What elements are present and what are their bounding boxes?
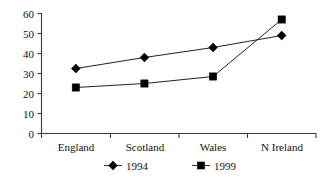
legend-entry-1994[interactable]: 1994 (104, 160, 149, 172)
x-category-label: Scotland (126, 141, 165, 153)
y-tick-label: 50 (23, 28, 35, 40)
chart-canvas: 60 50 40 30 20 10 0 England Scotland Wal… (0, 0, 325, 177)
series-1999-line (76, 20, 282, 88)
x-category-label: England (58, 141, 95, 153)
y-axis-ticks (38, 14, 42, 134)
diamond-marker-icon (209, 43, 218, 52)
series-1999 (72, 16, 285, 91)
series-1994-line (76, 36, 282, 69)
line-chart: 60 50 40 30 20 10 0 England Scotland Wal… (0, 0, 325, 177)
y-tick-label: 20 (23, 88, 35, 100)
chart-legend: 1994 1999 (104, 160, 237, 172)
y-tick-label: 0 (29, 128, 35, 140)
diamond-marker-icon (140, 53, 149, 62)
x-category-label: N Ireland (261, 141, 303, 153)
legend-label-1999: 1999 (214, 160, 237, 172)
x-category-label: Wales (200, 141, 227, 153)
y-tick-label: 60 (23, 8, 35, 20)
square-marker-icon (72, 84, 79, 91)
square-marker-icon (198, 162, 205, 169)
legend-label-1994: 1994 (126, 160, 149, 172)
y-tick-label: 30 (23, 68, 35, 80)
y-axis-tick-labels: 60 50 40 30 20 10 0 (23, 8, 35, 140)
diamond-marker-icon (71, 64, 80, 73)
x-axis-ticks (42, 134, 317, 139)
square-marker-icon (278, 16, 285, 23)
y-tick-label: 40 (23, 48, 35, 60)
diamond-marker-icon (109, 161, 117, 170)
legend-entry-1999[interactable]: 1999 (192, 160, 237, 172)
square-marker-icon (209, 73, 216, 80)
x-axis-category-labels: England Scotland Wales N Ireland (58, 141, 304, 153)
series-1994 (71, 31, 286, 73)
square-marker-icon (141, 80, 148, 87)
diamond-marker-icon (277, 31, 286, 40)
y-tick-label: 10 (23, 108, 35, 120)
